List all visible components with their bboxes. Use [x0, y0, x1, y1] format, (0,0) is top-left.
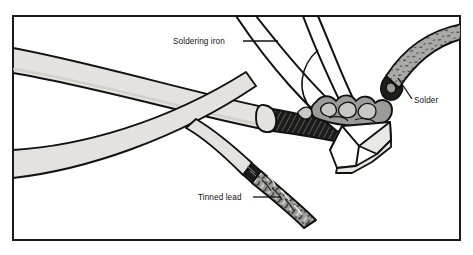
- illustration-figure: Soldering iron Solder Tinned lead: [0, 0, 473, 255]
- figure-frame: [13, 16, 460, 240]
- soldering-illustration-canvas: Soldering iron Solder Tinned lead: [0, 0, 473, 255]
- label-tinned-lead-text: Tinned lead: [198, 193, 242, 202]
- label-soldering-iron-text: Soldering iron: [173, 37, 225, 46]
- label-solder-text: Solder: [414, 96, 438, 105]
